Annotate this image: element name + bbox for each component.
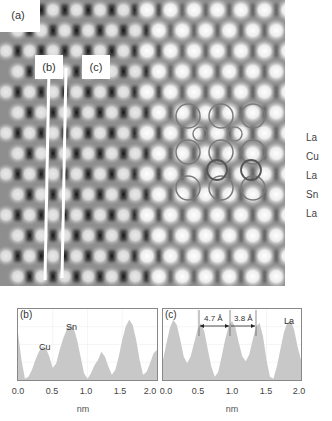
row-label-la-1: La (306, 132, 317, 143)
tick-c-1: 0.5 (192, 386, 205, 396)
line-tag-b-text: (b) (42, 61, 55, 73)
row-label-cu: Cu (306, 151, 319, 162)
line-tag-c: (c) (82, 55, 110, 79)
peak-label-cu: Cu (39, 342, 51, 352)
tick-c-0: 0.0 (160, 386, 173, 396)
distance-arrows (162, 308, 300, 338)
tick-c-3: 1.5 (260, 386, 273, 396)
row-label-sn: Sn (306, 189, 318, 200)
tick-b-3: 1.5 (114, 386, 127, 396)
panel-a-tag-text: (a) (11, 9, 24, 21)
tick-c-4: 2.0 (293, 386, 306, 396)
tick-b-4: 2.0 (144, 386, 157, 396)
tick-c-2: 1.0 (226, 386, 239, 396)
peak-label-sn: Sn (66, 322, 77, 332)
line-tag-b: (b) (35, 55, 63, 79)
panel-a-tag: (a) (0, 0, 40, 32)
tick-b-0: 0.0 (12, 386, 25, 396)
line-tag-c-text: (c) (90, 61, 103, 73)
panel-b-tag: (b) (20, 309, 32, 320)
atomic-lattice-image (0, 0, 285, 286)
row-label-la-3: La (306, 208, 317, 219)
tick-b-2: 1.0 (80, 386, 93, 396)
x-axis-label-b: nm (77, 404, 90, 414)
stem-image-panel-a (0, 0, 285, 286)
row-label-la-2: La (306, 170, 317, 181)
tick-b-1: 0.5 (46, 386, 59, 396)
x-axis-label-c: nm (226, 404, 239, 414)
